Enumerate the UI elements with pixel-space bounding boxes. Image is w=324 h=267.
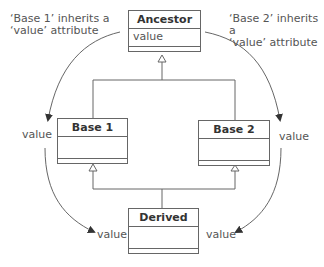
note-base2-inherits: ‘Base 2’ inherits a ‘value’ attribute <box>229 13 324 49</box>
generalization-bottom <box>89 164 239 208</box>
class-base1[interactable]: Base 1 <box>57 118 128 164</box>
label-derived-right-value: value <box>206 228 236 241</box>
label-base2-value: value <box>279 130 309 143</box>
class-base1-operations <box>58 158 127 159</box>
class-ancestor-operations <box>129 46 200 47</box>
note-right-line2: ‘value’ attribute <box>229 37 324 49</box>
class-base1-name: Base 1 <box>58 119 127 137</box>
class-derived-name: Derived <box>129 209 198 227</box>
class-ancestor-name: Ancestor <box>129 11 200 29</box>
class-base2[interactable]: Base 2 <box>198 120 270 166</box>
class-derived-operations <box>129 248 198 249</box>
class-base2-operations <box>199 160 269 161</box>
label-base1-value: value <box>22 128 52 141</box>
class-ancestor-attribute: value <box>129 29 200 44</box>
note-left-line2: ‘value’ attribute <box>10 25 109 37</box>
class-derived[interactable]: Derived <box>128 208 199 254</box>
label-derived-left-value: value <box>97 228 127 241</box>
note-base1-inherits: ‘Base 1’ inherits a ‘value’ attribute <box>10 13 109 37</box>
arrow-ancestor-to-base1 <box>48 32 120 120</box>
class-ancestor[interactable]: Ancestor value <box>128 10 201 52</box>
class-base2-name: Base 2 <box>199 121 269 139</box>
note-right-line1: ‘Base 2’ inherits a <box>229 13 324 37</box>
generalization-top <box>93 55 235 120</box>
